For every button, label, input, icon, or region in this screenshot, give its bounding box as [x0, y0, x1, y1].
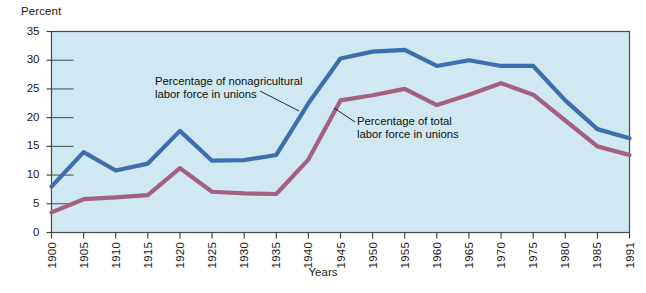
- y-tick-label: 35: [14, 26, 40, 38]
- annotation-nonagricultural-label: Percentage of nonagricultural labor forc…: [155, 75, 303, 101]
- x-tick-label: 1965: [463, 242, 475, 268]
- x-tick-label: 1960: [431, 242, 443, 268]
- y-tick-label: 0: [14, 227, 40, 239]
- union-membership-line-chart: Percent 05101520253035 19001905191019151…: [0, 0, 646, 293]
- x-tick-label: 1980: [559, 242, 571, 268]
- plot-area: [0, 0, 646, 293]
- y-axis-title: Percent: [21, 5, 61, 17]
- y-tick-label: 30: [14, 54, 40, 66]
- y-tick-label: 15: [14, 140, 40, 152]
- x-tick-label: 1905: [78, 242, 90, 268]
- x-tick-label: 1940: [302, 242, 314, 268]
- x-tick-label: 1955: [399, 242, 411, 268]
- x-tick-label: 1985: [591, 242, 603, 268]
- x-axis-ticks: [52, 233, 630, 239]
- x-tick-label: 1900: [46, 242, 58, 268]
- x-tick-label: 1925: [206, 242, 218, 268]
- annotation-total-label: Percentage of total labor force in union…: [357, 115, 459, 141]
- y-axis-ticks: [47, 32, 52, 233]
- x-tick-label: 1975: [527, 242, 539, 268]
- x-tick-label: 1970: [495, 242, 507, 268]
- y-tick-label: 10: [14, 169, 40, 181]
- x-tick-label: 1920: [174, 242, 186, 268]
- y-tick-label: 25: [14, 83, 40, 95]
- x-tick-label: 1945: [335, 242, 347, 268]
- y-tick-label: 20: [14, 112, 40, 124]
- x-tick-label: 1915: [142, 242, 154, 268]
- x-tick-label: 1950: [367, 242, 379, 268]
- x-tick-label: 1930: [238, 242, 250, 268]
- y-tick-label: 5: [14, 198, 40, 210]
- x-tick-label: 1935: [270, 242, 282, 268]
- x-axis-title: Years: [0, 266, 646, 278]
- x-tick-label: 1991: [624, 242, 636, 268]
- x-tick-label: 1910: [110, 242, 122, 268]
